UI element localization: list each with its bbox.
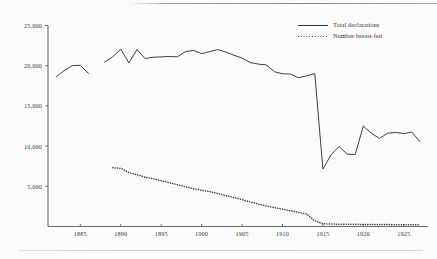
x-tick-label: 1900	[188, 230, 216, 237]
y-tick-label: 25,000	[8, 22, 42, 29]
chart-series	[56, 49, 420, 225]
x-tick-label: 1925	[390, 230, 418, 237]
x-tick-label: 1920	[349, 230, 377, 237]
x-tick-label: 1910	[268, 230, 296, 237]
legend-line-dotted-icon	[297, 32, 329, 40]
y-tick-label: 20,000	[8, 62, 42, 69]
chart-legend: Total declarations Number breast-fed	[297, 19, 433, 41]
y-tick-label: 5,000	[8, 183, 42, 190]
x-tick-label: 1905	[228, 230, 256, 237]
legend-entry-number-breast-fed: Number breast-fed	[297, 30, 433, 41]
x-tick-label: 1915	[309, 230, 337, 237]
y-tick-label: 10,000	[8, 143, 42, 150]
x-tick-label: 1885	[66, 230, 94, 237]
chart-axes	[45, 26, 428, 227]
y-tick-label: 15,000	[8, 102, 42, 109]
x-tick-label: 1895	[147, 230, 175, 237]
legend-line-solid-icon	[297, 21, 329, 29]
x-tick-label: 1890	[107, 230, 135, 237]
legend-label-number-breast-fed: Number breast-fed	[329, 32, 382, 39]
legend-entry-total-declarations: Total declarations	[297, 19, 433, 30]
legend-label-total-declarations: Total declarations	[329, 21, 380, 28]
chart-page: 25,00020,00015,00010,0005,000 1885189018…	[0, 0, 437, 259]
